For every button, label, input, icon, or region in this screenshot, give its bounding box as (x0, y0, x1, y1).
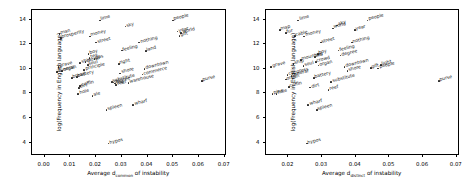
x-tick-mark (44, 154, 45, 157)
y-axis-label-right: log(Frequency in English language) (290, 33, 296, 131)
y-tick-mark (29, 117, 32, 118)
x-tick-mark (224, 154, 225, 157)
scatter-point (78, 87, 80, 89)
y-tick-label: 10 (253, 65, 260, 71)
scatter-point-label: prosperity (61, 28, 85, 38)
scatter-point-label: battery (77, 69, 94, 78)
y-tick-label: 10 (19, 65, 26, 71)
scatter-point (316, 109, 318, 111)
y-tick-mark (29, 142, 32, 143)
scatter-point-label: year (355, 24, 366, 31)
scatter-point (303, 65, 305, 67)
scatter-point-label: people (173, 13, 189, 22)
scatter-point (270, 66, 272, 68)
scatter-point (370, 67, 372, 69)
scatter-point-label: hypos (109, 136, 124, 144)
x-tick-label: 0.04 (349, 161, 361, 167)
x-tick-mark (456, 154, 457, 157)
x-tick-mark (95, 154, 96, 157)
scatter-point (272, 93, 274, 95)
scatter-point-label: map (280, 23, 291, 30)
figure-scatter-pair: manprosperitygravefuneralorganbreadbatte… (0, 0, 467, 187)
scatter-point (144, 68, 146, 70)
axes-left: manprosperitygravefuneralorganbreadbatte… (31, 9, 226, 155)
scatter-point (314, 56, 316, 58)
scatter-point-label: world (181, 26, 194, 34)
scatter-point-label: light (381, 58, 392, 65)
scatter-point (303, 36, 305, 38)
scatter-point (336, 25, 338, 27)
scatter-point (172, 20, 174, 22)
x-axis-label-left: Average dcommon of instability (87, 170, 169, 178)
x-tick-label: 0.05 (166, 161, 178, 167)
y-tick-label: 14 (19, 16, 26, 22)
scatter-point-label: right (119, 58, 131, 65)
y-tick-label: 4 (23, 139, 26, 145)
scatter-point-label: organ (62, 64, 76, 72)
scatter-point (177, 31, 179, 33)
scatter-point (354, 29, 356, 31)
scatter-point-label: feeling (339, 43, 355, 52)
scatter-point (145, 50, 147, 52)
scatter-point-label: gas (95, 53, 104, 60)
scatter-point-label: year (178, 25, 189, 32)
x-axis-label-subscript: common (116, 173, 133, 178)
x-tick-label: 0.00 (38, 161, 50, 167)
scatter-point (106, 109, 108, 111)
scatter-point-label: lime (100, 14, 111, 21)
x-tick-mark (388, 154, 389, 157)
scatter-point-label: lime (298, 14, 309, 21)
y-tick-mark (263, 142, 266, 143)
scatter-point (338, 50, 340, 52)
x-axis-label-prefix: Average d (322, 170, 350, 176)
scatter-point-label: degree (341, 48, 358, 57)
y-tick-label: 4 (256, 139, 259, 145)
scatter-point-label: feeling (122, 43, 138, 52)
scatter-point (317, 53, 319, 55)
y-tick-mark (263, 19, 266, 20)
scatter-point-label: sky (126, 21, 135, 28)
x-tick-label: 0.01 (63, 161, 75, 167)
scatter-point (279, 29, 281, 31)
scatter-point (328, 89, 330, 91)
scatter-point-label: crowd (316, 55, 331, 63)
scatter-point (380, 64, 382, 66)
x-tick-mark (172, 154, 173, 157)
y-tick-label: 8 (23, 89, 26, 95)
y-tick-label: 12 (253, 40, 260, 46)
scatter-point (94, 58, 96, 60)
scatter-point-label: nothing (139, 35, 157, 44)
scatter-point-label: street (97, 36, 111, 44)
axes-right: gravepineholemapfurorgancongresscoffinfu… (265, 9, 460, 155)
scatter-point (306, 143, 308, 145)
x-axis-label-prefix: Average d (87, 170, 115, 176)
scatter-point-label: purse (202, 74, 216, 82)
y-tick-label: 6 (23, 114, 26, 120)
scatter-point (344, 66, 346, 68)
x-axis-label-suffix: of instability (133, 170, 169, 176)
scatter-point (132, 104, 134, 106)
x-tick-label: 0.06 (416, 161, 428, 167)
scatter-point-label: people (368, 13, 384, 22)
scatter-point-label: hole (79, 88, 90, 95)
x-axis-label-suffix: of instability (365, 170, 401, 176)
scatter-point (115, 84, 117, 86)
scatter-point-label: boy (318, 48, 327, 55)
scatter-point (320, 42, 322, 44)
panel-left: manprosperitygravefuneralorganbreadbatte… (0, 0, 234, 187)
scatter-point (438, 80, 440, 82)
scatter-point (347, 70, 349, 72)
scatter-point-label: reef (329, 84, 339, 91)
scatter-point (92, 95, 94, 97)
y-tick-mark (263, 92, 266, 93)
scatter-point (313, 77, 315, 79)
scatter-point-label: hypos (307, 136, 322, 144)
scatter-point-label: shore (120, 66, 134, 74)
scatter-point-label: world (333, 22, 346, 30)
scatter-point (297, 20, 299, 22)
scatter-point-label: boy (89, 48, 98, 55)
x-tick-mark (422, 154, 423, 157)
scatter-point-label: money (304, 29, 320, 38)
scatter-point-label: money (90, 29, 106, 38)
x-tick-mark (147, 154, 148, 157)
